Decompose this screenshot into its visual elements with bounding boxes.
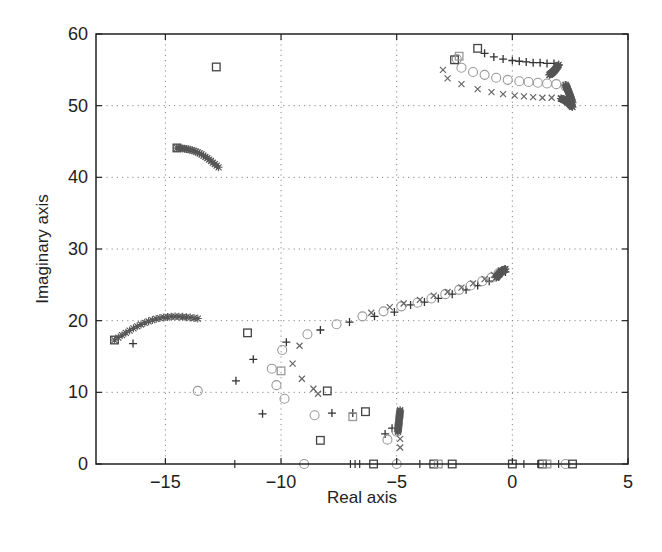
dense-arc-marker xyxy=(194,315,202,323)
y-tick-labels: 0102030405060 xyxy=(68,24,88,474)
cross-marker xyxy=(539,95,545,101)
circle-marker xyxy=(457,63,466,72)
plus-marker xyxy=(515,57,523,65)
dense-arc-marker xyxy=(568,103,576,111)
cross-marker xyxy=(431,293,437,299)
y-tick-label: 40 xyxy=(68,167,88,187)
cross-marker xyxy=(417,297,423,303)
circle-marker xyxy=(552,80,561,89)
circle-marker xyxy=(524,78,533,87)
cross-marker xyxy=(458,81,464,87)
plus-marker xyxy=(381,430,389,438)
x-tick-label: −15 xyxy=(150,472,181,492)
square-marker xyxy=(474,45,482,53)
circle-marker xyxy=(492,73,501,82)
circle-marker xyxy=(272,381,281,390)
square-marker xyxy=(317,437,325,445)
plus-marker xyxy=(259,410,267,418)
cross-marker xyxy=(315,391,321,397)
plus-marker xyxy=(508,57,516,65)
circle-marker xyxy=(469,67,478,76)
circle-marker xyxy=(383,435,392,444)
plus-marker xyxy=(499,55,507,63)
cross-marker xyxy=(521,93,527,99)
grid-lines xyxy=(96,34,628,464)
circle-marker xyxy=(310,411,319,420)
cross-marker xyxy=(387,304,393,310)
cross-marker xyxy=(512,93,518,99)
dense-arc-marker xyxy=(215,163,223,171)
circle-marker xyxy=(543,79,552,88)
x-tick-label: 0 xyxy=(507,472,517,492)
circle-marker xyxy=(379,307,388,316)
root-locus-chart: −15−10−505 0102030405060 Real axis Imagi… xyxy=(0,0,662,552)
plus-marker xyxy=(316,326,324,334)
cross-marker xyxy=(397,445,403,451)
circle-marker xyxy=(267,364,276,373)
y-tick-label: 0 xyxy=(78,454,88,474)
circle-marker xyxy=(358,312,367,321)
y-axis-label: Imaginary axis xyxy=(33,194,52,304)
dense-arc-marker xyxy=(545,71,553,79)
circle-marker xyxy=(503,75,512,84)
circle-marker xyxy=(303,330,312,339)
square-marker xyxy=(244,329,252,337)
circle-marker xyxy=(332,320,341,329)
y-tick-label: 10 xyxy=(68,382,88,402)
data-points xyxy=(111,45,577,469)
cross-marker xyxy=(368,310,374,316)
plus-marker xyxy=(249,355,257,363)
y-tick-label: 20 xyxy=(68,311,88,331)
cross-marker xyxy=(290,361,296,367)
square-marker xyxy=(362,408,370,416)
plus-marker xyxy=(129,340,137,348)
circle-marker xyxy=(480,70,489,79)
cross-marker xyxy=(475,86,481,92)
cross-marker xyxy=(500,91,506,97)
plus-marker xyxy=(536,59,544,67)
circle-marker xyxy=(193,386,202,395)
square-marker xyxy=(212,63,220,71)
x-axis-label: Real axis xyxy=(327,488,397,507)
circle-marker xyxy=(533,78,542,87)
plus-marker xyxy=(232,377,240,385)
cross-marker xyxy=(445,75,451,81)
cross-marker xyxy=(397,436,403,442)
circle-marker xyxy=(515,77,524,86)
cross-marker xyxy=(549,95,555,101)
plus-marker xyxy=(529,59,537,67)
plus-marker xyxy=(346,318,354,326)
plus-marker xyxy=(543,59,551,67)
x-tick-label: −10 xyxy=(266,472,297,492)
x-tick-label: 5 xyxy=(623,472,633,492)
plus-marker xyxy=(328,409,336,417)
y-tick-label: 60 xyxy=(68,24,88,44)
cross-marker xyxy=(299,376,305,382)
cross-marker xyxy=(489,89,495,95)
y-tick-label: 30 xyxy=(68,239,88,259)
circle-marker xyxy=(278,346,287,355)
cross-marker xyxy=(297,343,303,349)
dense-arc-marker xyxy=(396,406,404,414)
square-marker xyxy=(324,387,332,395)
plus-marker xyxy=(522,58,530,66)
cross-marker xyxy=(440,67,446,73)
dense-arc-marker xyxy=(501,265,509,273)
plus-marker xyxy=(282,338,290,346)
plus-marker xyxy=(490,53,498,61)
square_light-marker xyxy=(277,367,285,375)
cross-marker xyxy=(401,300,407,306)
y-tick-label: 50 xyxy=(68,96,88,116)
cross-marker xyxy=(530,94,536,100)
